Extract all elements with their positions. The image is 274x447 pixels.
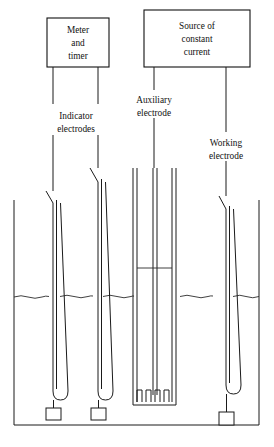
auxiliary-electrode-line-2: electrode	[137, 108, 171, 118]
indicator-electrode-right	[90, 168, 113, 420]
working-electrode-line-2: electrode	[209, 151, 243, 161]
frit-tooth-2	[146, 390, 151, 402]
auxiliary-electrode-line-1: Auxiliary	[136, 95, 172, 105]
meter-and-timer-line-2: and	[71, 38, 85, 48]
source-box-line-3: current	[184, 47, 211, 57]
frit-tooth-1	[137, 390, 142, 402]
meter-and-timer-line-3: timer	[68, 51, 89, 61]
coulometric-cell-diagram: Meter and timer Source of constant curre…	[0, 0, 274, 447]
source-box-line-1: Source of	[179, 21, 216, 31]
source-box-line-2: constant	[182, 34, 213, 44]
indicator-right-tip	[91, 408, 106, 420]
working-electrode-line-1: Working	[210, 138, 243, 148]
liquid-level-seg-3	[103, 295, 134, 298]
indicator-electrodes-line-2: electrodes	[57, 124, 95, 134]
indicator-left-tip	[46, 408, 61, 420]
liquid-level-seg-1	[14, 296, 49, 299]
label-indicator-electrodes: Indicator electrodes	[57, 111, 95, 134]
figure-root: Meter and timer Source of constant curre…	[0, 0, 274, 447]
working-electrode-tip	[219, 412, 234, 425]
source-of-constant-current-box: Source of constant current	[144, 10, 250, 67]
liquid-level-seg-4	[180, 295, 213, 298]
label-auxiliary-electrode: Auxiliary electrode	[136, 95, 172, 118]
meter-and-timer-line-1: Meter	[67, 25, 90, 35]
working-electrode	[219, 196, 241, 425]
liquid-level-seg-2	[60, 295, 93, 298]
label-working-electrode: Working electrode	[209, 138, 243, 161]
indicator-electrode-left	[46, 191, 68, 420]
frit-tooth-4	[164, 390, 169, 402]
indicator-electrodes-line-1: Indicator	[59, 111, 93, 121]
auxiliary-electrode	[133, 168, 176, 405]
meter-and-timer-box: Meter and timer	[47, 18, 109, 67]
